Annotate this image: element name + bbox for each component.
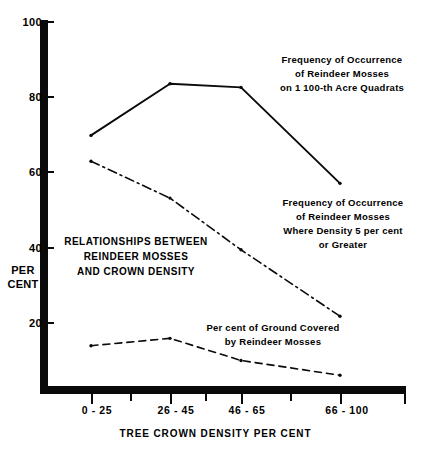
annotation-dashdot-line3: Where Density 5 per cent [255,224,431,238]
series-line-quadrat-frequency [89,82,341,185]
annotation-density-5pct: Frequency of Occurrence of Reindeer Moss… [255,196,431,252]
annotation-quadrat-frequency: Frequency of Occurrence of Reindeer Moss… [253,53,431,95]
annotation-dashdot-line1: Frequency of Occurrence [255,196,431,210]
chart-title-line3: AND CROWN DENSITY [44,264,228,279]
chart-figure: 100 80 60 40 20 PER CENT 0 - 25 26 - 45 … [0,0,431,449]
annotation-solid-line1: Frequency of Occurrence [253,53,431,67]
annotation-dotted-line2: by Reindeer Mosses [188,335,358,349]
chart-title-line2: REINDEER MOSSES [44,249,228,264]
chart-title-line1: RELATIONSHIPS BETWEEN [44,234,228,249]
annotation-solid-line3: on 1 100-th Acre Quadrats [253,81,431,95]
annotation-ground-cover: Per cent of Ground Covered by Reindeer M… [188,321,358,349]
annotation-dotted-line1: Per cent of Ground Covered [188,321,358,335]
annotation-solid-line2: of Reindeer Mosses [253,67,431,81]
annotation-dashdot-line4: or Greater [255,238,431,252]
annotation-dashdot-line2: of Reindeer Mosses [255,210,431,224]
chart-title-block: RELATIONSHIPS BETWEEN REINDEER MOSSES AN… [44,234,228,279]
